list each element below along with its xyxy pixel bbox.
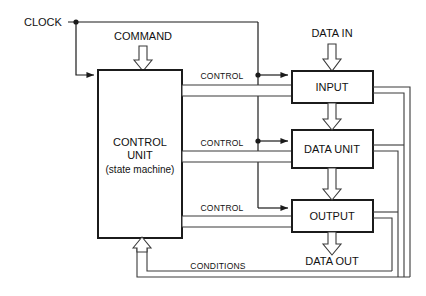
label-control-3: CONTROL bbox=[201, 203, 244, 213]
label-data-out: DATA OUT bbox=[305, 255, 359, 267]
data-in-bus-arrow bbox=[323, 44, 341, 71]
clock-junction-dot-origin bbox=[73, 19, 78, 24]
control-unit-label-line1: CONTROL bbox=[113, 136, 167, 148]
block-diagram-canvas: CLOCK COMMAND DATA IN DATA OUT CONTROL U… bbox=[0, 0, 426, 296]
clock-junction-dot-dataunit bbox=[255, 138, 260, 143]
dataunit-to-output-bus bbox=[323, 168, 341, 200]
label-control-1: CONTROL bbox=[201, 71, 244, 81]
output-label: OUTPUT bbox=[309, 210, 355, 222]
input-to-dataunit-bus bbox=[323, 103, 341, 130]
control-unit-label-line2: UNIT bbox=[127, 149, 153, 161]
label-data-in: DATA IN bbox=[311, 27, 352, 39]
output-to-dataout-bus bbox=[323, 232, 341, 255]
clock-junction-dot-input bbox=[255, 72, 260, 77]
label-control-2: CONTROL bbox=[201, 138, 244, 148]
data-unit-label: DATA UNIT bbox=[304, 143, 360, 155]
label-clock: CLOCK bbox=[24, 16, 63, 28]
control-unit-label-line3: (state machine) bbox=[106, 164, 175, 175]
input-label: INPUT bbox=[316, 81, 349, 93]
label-command: COMMAND bbox=[114, 30, 172, 42]
command-bus-arrow bbox=[134, 46, 152, 71]
label-conditions: CONDITIONS bbox=[190, 261, 245, 271]
